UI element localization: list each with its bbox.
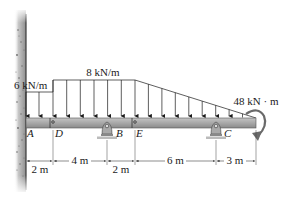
fixed-wall [12,8,28,194]
dim-C-end: 3 m [227,154,244,166]
dim-EC: 6 m [167,154,184,166]
dim-DB: 4 m [72,154,89,166]
point-C: C [224,127,232,139]
dim-AD: 2 m [32,163,49,175]
beam-diagram: 8 kN/m 6 kN/m 48 kN · m A D B E C 2 m 4 … [0,0,282,202]
point-A: A [26,127,34,139]
load-arrows [26,80,243,118]
moment-label: 48 kN · m [234,95,279,107]
point-E: E [135,127,143,139]
point-B: B [116,127,123,139]
point-D: D [54,127,63,139]
load-label-6: 6 kN/m [14,79,48,91]
dim-BE: 2 m [113,163,130,175]
distributed-load [26,80,256,118]
load-label-8: 8 kN/m [86,66,120,78]
